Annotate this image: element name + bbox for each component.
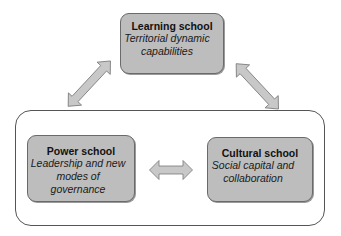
power-school-description: Leadership and new modes of governance bbox=[28, 157, 128, 196]
learning-school-title: Learning school bbox=[121, 20, 223, 32]
cultural-school-title: Cultural school bbox=[208, 147, 312, 159]
double-arrow-diagonal-left-icon bbox=[70, 66, 106, 104]
double-arrow-diagonal-right-icon bbox=[238, 66, 274, 104]
cultural-school-description: Social capital and collaboration bbox=[208, 159, 298, 185]
cultural-school-box: Cultural school Social capital and colla… bbox=[207, 137, 313, 202]
learning-school-box: Learning school Territorial dynamic capa… bbox=[120, 13, 224, 74]
double-arrow-horizontal-icon bbox=[149, 160, 193, 180]
power-school-box: Power school Leadership and new modes of… bbox=[27, 135, 135, 202]
learning-school-description: Territorial dynamic capabilities bbox=[121, 32, 213, 58]
power-school-title: Power school bbox=[28, 145, 134, 157]
